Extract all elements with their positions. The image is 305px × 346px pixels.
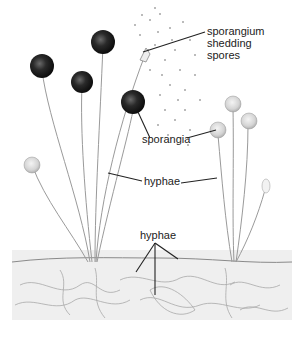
label-line-2: shedding [207,37,277,49]
substrate [12,250,292,320]
mold-diagram: sporangium shedding spores sporangia hyp… [0,0,305,346]
hyphae-upper-label: hyphae [144,175,180,187]
dark-sporangia [30,30,145,114]
sporangium-shedding-label: sporangium shedding spores [207,25,277,61]
hyphae-lower-label: hyphae [140,229,176,241]
label-line-3: spores [207,49,277,61]
sporangia-label: sporangia [142,133,190,145]
label-line-1: sporangium [207,25,277,37]
